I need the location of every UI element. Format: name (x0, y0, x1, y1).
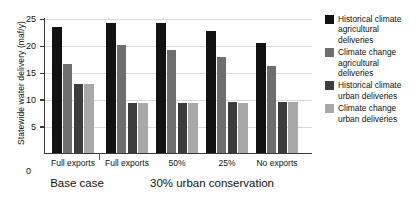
bar-series-0-category-4 (256, 43, 266, 152)
y-axis-zero-label: 0 (26, 166, 31, 176)
x-category-label-4: No exports (237, 158, 317, 168)
bar-group-3 (206, 18, 248, 153)
legend-item-3[interactable]: Climate change urban deliveries (325, 103, 416, 124)
bar-series-0-category-3 (206, 31, 216, 153)
bar-series-1-category-0 (63, 64, 73, 153)
legend-item-2[interactable]: Historical climate urban deliveries (325, 80, 416, 101)
bar-series-0-category-1 (106, 23, 116, 152)
bar-series-3-category-1 (138, 103, 148, 153)
bar-group-1 (106, 18, 148, 153)
bar-series-2-category-0 (74, 84, 84, 153)
bar-series-1-category-1 (117, 45, 127, 152)
legend-label-0: Historical climate agricultural deliveri… (338, 14, 416, 45)
y-tick-label-15: 15 (26, 69, 36, 78)
y-tick-label-20: 20 (26, 42, 36, 51)
bar-chart-figure: Statewide water delivery (maf/y) 5101520… (0, 0, 416, 204)
plot-area: 510152025 (44, 18, 312, 154)
bar-group-0 (52, 18, 94, 153)
bar-series-1-category-2 (167, 50, 177, 152)
bar-series-1-category-4 (267, 66, 277, 153)
bar-group-4 (256, 18, 298, 153)
legend-label-2: Historical climate urban deliveries (338, 80, 416, 101)
y-tick-label-5: 5 (31, 123, 36, 132)
y-tick-label-25: 25 (26, 15, 36, 24)
bar-series-container (44, 18, 312, 153)
bar-series-1-category-3 (217, 57, 227, 153)
bar-series-2-category-1 (128, 103, 138, 153)
bar-group-2 (156, 18, 198, 153)
legend-label-3: Climate change urban deliveries (338, 103, 416, 124)
y-tick-label-10: 10 (26, 96, 36, 105)
bar-series-0-category-2 (156, 23, 166, 152)
x-axis-line (44, 153, 312, 154)
bar-series-3-category-0 (84, 84, 94, 152)
bar-series-3-category-4 (288, 102, 298, 153)
legend-swatch-icon-3 (325, 104, 334, 113)
chart-legend: Historical climate agricultural deliveri… (325, 14, 416, 126)
bar-series-2-category-4 (278, 102, 288, 153)
bar-series-2-category-2 (178, 103, 188, 153)
group-separator-tick (99, 153, 100, 160)
bar-series-0-category-0 (52, 27, 62, 152)
bar-series-3-category-3 (238, 103, 248, 153)
x-group-label-1: 30% urban conservation (122, 177, 302, 189)
legend-item-1[interactable]: Climate change agricultural deliveries (325, 47, 416, 78)
legend-swatch-icon-2 (325, 81, 334, 90)
y-axis-title: Statewide water delivery (maf/y) (16, 8, 26, 158)
legend-label-1: Climate change agricultural deliveries (338, 47, 416, 78)
bar-series-3-category-2 (188, 103, 198, 153)
legend-swatch-icon-1 (325, 48, 334, 57)
legend-swatch-icon-0 (325, 15, 334, 24)
bar-series-2-category-3 (228, 102, 238, 153)
legend-item-0[interactable]: Historical climate agricultural deliveri… (325, 14, 416, 45)
